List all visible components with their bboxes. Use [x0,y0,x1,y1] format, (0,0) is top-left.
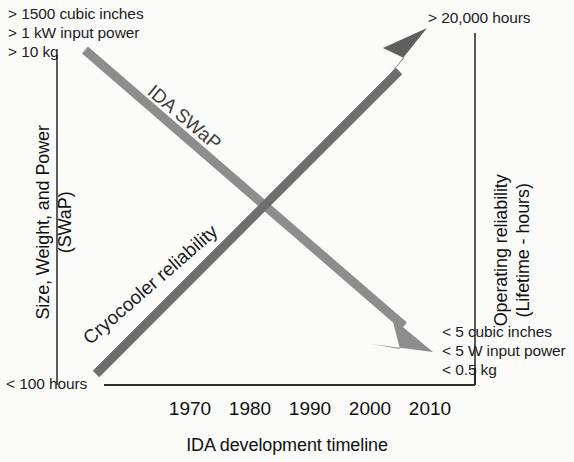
x-tick-2000: 2000 [338,398,402,420]
ida-swap-reliability-diagram: > 1500 cubic inches > 1 kW input power >… [0,0,574,462]
annotation-top-right: > 20,000 hours [428,8,530,27]
annotation-bottom-left: < 100 hours [6,374,87,393]
x-tick-1990: 1990 [278,398,342,420]
x-axis-title: IDA development timeline [0,434,574,456]
x-tick-2010: 2010 [398,398,462,420]
y-axis-left-title: Size, Weight, and Power (SWaP) [32,82,77,362]
x-tick-1970: 1970 [158,398,222,420]
annotation-top-left: > 1500 cubic inches > 1 kW input power >… [8,4,144,62]
y-axis-right-title: Operating reliability (Lifetime - hours) [490,110,535,390]
x-tick-1980: 1980 [218,398,282,420]
